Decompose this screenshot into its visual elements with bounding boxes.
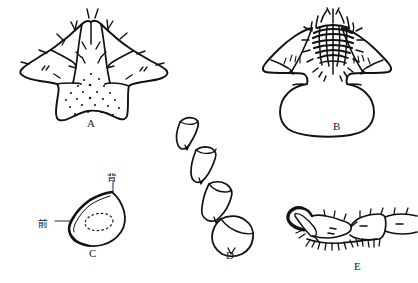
annotation-dorsal: 背 xyxy=(107,170,117,184)
panel-label-d: D xyxy=(226,249,234,261)
panel-d-drawing xyxy=(177,118,254,257)
panel-label-b: B xyxy=(333,120,341,132)
panel-c-drawing xyxy=(55,182,125,246)
panel-c-inner-ellipse xyxy=(84,212,114,233)
panel-label-c: C xyxy=(89,247,97,259)
annotation-anterior: 前 xyxy=(38,216,48,230)
panel-label-e: E xyxy=(354,260,361,272)
panel-label-a: A xyxy=(87,117,95,129)
panel-a-drawing xyxy=(20,9,167,120)
panel-b-setose-patch xyxy=(302,8,364,81)
panel-e-drawing xyxy=(288,208,417,250)
panel-b-drawing xyxy=(263,8,391,137)
illustration-plate: A B C D E 背 前 xyxy=(0,0,418,283)
plate-svg xyxy=(0,0,418,283)
